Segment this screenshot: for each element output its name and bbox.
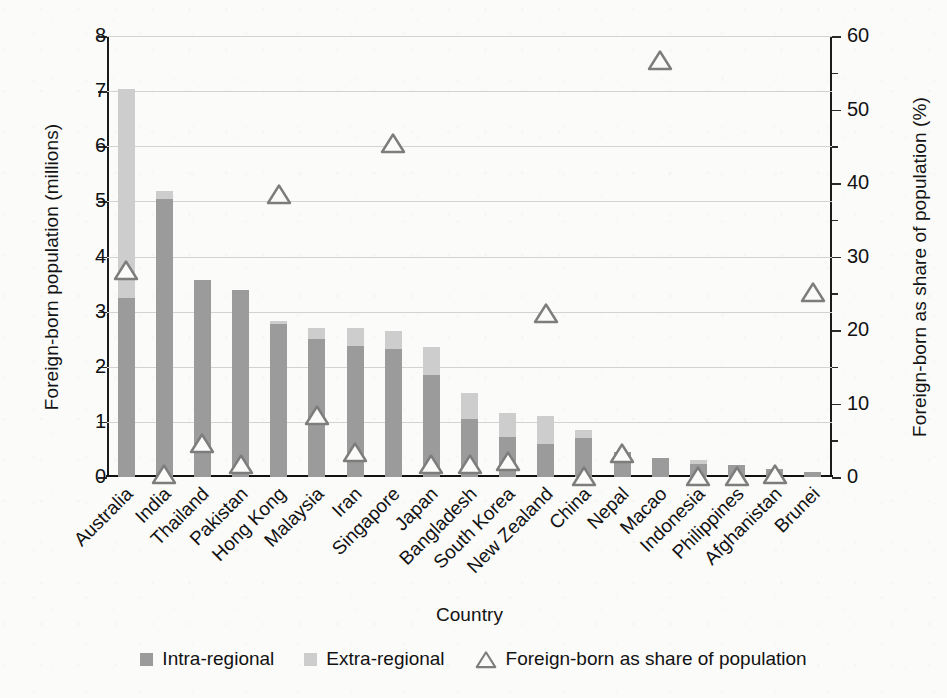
y-axis-right-tick [832, 257, 841, 259]
bar-stack [232, 290, 249, 477]
bar-segment-extra-regional [308, 328, 325, 340]
x-axis-category-label: China [545, 483, 596, 534]
legend-item[interactable]: Extra-regional [304, 648, 444, 670]
y-axis-right-minor-tick [832, 293, 838, 295]
share-triangle-marker [418, 453, 444, 475]
share-triangle-marker [609, 442, 635, 464]
x-axis-category-label: Australia [70, 483, 138, 551]
triangle-outline-icon [475, 650, 497, 669]
share-triangle-marker [457, 453, 483, 475]
share-triangle-marker [151, 463, 177, 485]
chart-figure: Foreign-born population (millions) Forei… [0, 0, 947, 698]
y-axis-right-tick-label: 20 [847, 319, 907, 339]
share-triangle-marker [685, 465, 711, 487]
share-triangle-marker [304, 404, 330, 426]
share-triangle-marker [495, 450, 521, 472]
gridline [107, 367, 832, 368]
share-triangle-marker [189, 432, 215, 454]
y-axis-right-tick-label: 0 [847, 466, 907, 486]
bar-stack [385, 331, 402, 477]
share-triangle-marker [342, 441, 368, 463]
share-triangle-marker [800, 281, 826, 303]
y-axis-right-tick-label: 10 [847, 393, 907, 413]
share-triangle-marker [724, 465, 750, 487]
bar-segment-intra-regional [652, 458, 669, 477]
y-axis-left-tick-label: 4 [46, 246, 106, 266]
swatch-extra-regional-icon [304, 653, 317, 666]
bar-segment-intra-regional [118, 298, 135, 477]
y-axis-left-tick-label: 0 [46, 466, 106, 486]
gridline [107, 257, 832, 258]
y-axis-right-tick [832, 404, 841, 406]
y-axis-right-minor-tick [832, 367, 838, 369]
bar-segment-extra-regional [499, 413, 516, 437]
x-axis-title: Country [107, 604, 832, 626]
bar-stack [652, 458, 669, 477]
y-axis-right-minor-tick [832, 440, 838, 442]
legend-item[interactable]: Foreign-born as share of population [475, 648, 807, 670]
bar-stack [156, 191, 173, 477]
bar-segment-intra-regional [537, 444, 554, 477]
bar-segment-intra-regional [232, 290, 249, 477]
legend-item-label: Intra-regional [162, 648, 274, 670]
y-axis-left-tick-label: 2 [46, 356, 106, 376]
swatch-intra-regional-icon [140, 653, 153, 666]
bar-segment-intra-regional [156, 199, 173, 477]
bar-segment-extra-regional [347, 328, 364, 346]
bar-stack [270, 321, 287, 477]
share-triangle-marker [571, 465, 597, 487]
bar-segment-extra-regional [575, 430, 592, 438]
gridline [107, 201, 832, 202]
bar-segment-intra-regional [270, 324, 287, 477]
y-axis-left-tick-label: 1 [46, 411, 106, 431]
y-axis-left-tick-label: 3 [46, 301, 106, 321]
bar-segment-extra-regional [423, 347, 440, 375]
bar-segment-intra-regional [804, 472, 821, 478]
bar-segment-intra-regional [385, 349, 402, 477]
legend-item-label: Extra-regional [326, 648, 444, 670]
bar-stack [804, 472, 821, 478]
share-triangle-marker [113, 259, 139, 281]
bar-stack [537, 416, 554, 477]
y-axis-right-minor-tick [832, 220, 838, 222]
share-triangle-marker [228, 453, 254, 475]
bar-segment-extra-regional [461, 393, 478, 419]
gridline [107, 312, 832, 313]
bar-stack [308, 328, 325, 477]
y-axis-right-tick [832, 477, 841, 479]
y-axis-right-tick-label: 30 [847, 246, 907, 266]
legend-item[interactable]: Intra-regional [140, 648, 274, 670]
y-axis-right-tick [832, 330, 841, 332]
bar-segment-extra-regional [385, 331, 402, 349]
share-triangle-marker [533, 302, 559, 324]
share-triangle-marker [762, 463, 788, 485]
legend-item-label: Foreign-born as share of population [506, 648, 807, 670]
x-axis-tick-labels: AustraliaIndiaThailandPakistanHong KongM… [0, 0, 947, 200]
chart-legend: Intra-regionalExtra-regionalForeign-born… [0, 648, 947, 670]
bar-segment-extra-regional [537, 416, 554, 444]
